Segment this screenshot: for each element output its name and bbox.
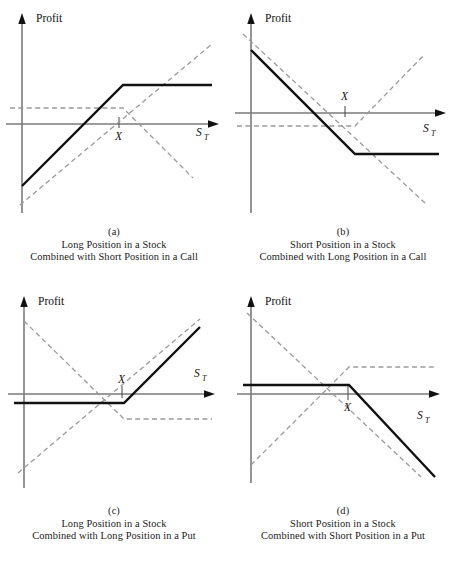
x-axis-label-sub-c: T [202, 374, 207, 383]
x-axis-label-d: S [417, 409, 423, 421]
x-axis-label-sub-b: T [431, 129, 436, 138]
strike-label-d: X [343, 401, 352, 413]
strike-label-a: X [114, 130, 123, 142]
options-profit-figure: Profit X S T (a) Long Position in a Stoc… [0, 0, 457, 565]
caption-a: (a) Long Position in a Stock Combined wi… [0, 226, 228, 264]
axes-c [8, 296, 215, 488]
axes-a [6, 13, 219, 213]
caption-line1-c: Long Position in a Stock [0, 518, 228, 531]
dashed-short-stock-b [243, 34, 425, 203]
caption-letter-b: (b) [229, 226, 457, 239]
axes-d [237, 296, 440, 483]
panel-c: Profit X S T (c) Long Position in a Stoc… [0, 283, 228, 565]
caption-line2-d: Combined with Short Position in a Put [229, 530, 457, 543]
chart-c: Profit X S T [0, 283, 228, 508]
caption-letter-a: (a) [0, 226, 228, 239]
dashed-long-put-c [24, 321, 212, 419]
caption-b: (b) Short Position in a Stock Combined w… [229, 226, 457, 264]
axes-b [235, 13, 446, 213]
caption-line1-d: Short Position in a Stock [229, 518, 457, 531]
dashed-short-put-d [251, 367, 435, 465]
caption-line2-a: Combined with Short Position in a Call [0, 251, 228, 264]
y-axis-label-a: Profit [36, 12, 63, 24]
caption-c: (c) Long Position in a Stock Combined wi… [0, 505, 228, 543]
caption-d: (d) Short Position in a Stock Combined w… [229, 505, 457, 543]
x-axis-label-b: S [423, 122, 429, 134]
caption-line2-b: Combined with Long Position in a Call [229, 251, 457, 264]
caption-letter-c: (c) [0, 505, 228, 518]
panel-d: Profit X S T (d) Short Position in a Sto… [229, 283, 457, 565]
solid-combined-c [14, 327, 200, 403]
y-axis-label-d: Profit [265, 295, 292, 307]
chart-a: Profit X S T [0, 0, 228, 225]
x-axis-label-a: S [196, 126, 202, 138]
panel-b: Profit X S T (b) Short Position in a Sto… [229, 0, 457, 282]
solid-combined-b [251, 50, 439, 154]
x-axis-label-sub-a: T [204, 133, 209, 142]
chart-d: Profit X S T [229, 283, 457, 508]
strike-label-c: X [117, 373, 126, 385]
dashed-short-call-a [10, 108, 193, 178]
y-axis-label-c: Profit [38, 295, 65, 307]
caption-line1-a: Long Position in a Stock [0, 239, 228, 252]
chart-b: Profit X S T [229, 0, 457, 225]
y-axis-label-b: Profit [265, 12, 292, 24]
panel-a: Profit X S T (a) Long Position in a Stoc… [0, 0, 228, 282]
caption-line1-b: Short Position in a Stock [229, 239, 457, 252]
x-axis-label-c: S [194, 367, 200, 379]
caption-line2-c: Combined with Long Position in a Put [0, 530, 228, 543]
caption-letter-d: (d) [229, 505, 457, 518]
strike-label-b: X [340, 90, 349, 102]
x-axis-label-sub-d: T [425, 416, 430, 425]
dashed-short-stock-d [247, 313, 421, 477]
